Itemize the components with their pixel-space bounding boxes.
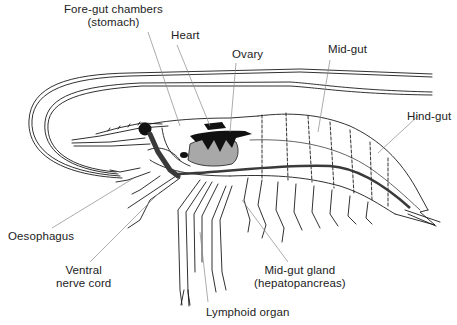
label-foregut-line1: Fore-gut chambers <box>64 3 163 16</box>
label-heart: Heart <box>171 29 200 42</box>
label-oesophagus: Oesophagus <box>8 230 74 243</box>
label-ventral-line2: nerve cord <box>56 277 111 290</box>
label-ventral-nerve-cord: Ventral nerve cord <box>56 264 111 290</box>
organs <box>139 122 411 208</box>
label-midgut-gland-line2: (hepatopancreas) <box>254 277 346 290</box>
heart-shape <box>204 122 226 130</box>
pereiopods <box>110 168 232 306</box>
label-foregut-line2: (stomach) <box>64 16 163 29</box>
nerve-ganglion <box>180 152 188 158</box>
label-hindgut: Hind-gut <box>407 110 451 123</box>
pleopods <box>244 178 372 242</box>
label-lymphoid-organ: Lymphoid organ <box>206 306 289 319</box>
label-foregut: Fore-gut chambers (stomach) <box>64 3 163 29</box>
label-midgut: Mid-gut <box>328 43 367 56</box>
abdomen <box>230 113 440 226</box>
label-ventral-line1: Ventral <box>56 264 111 277</box>
label-midgut-gland-line1: Mid-gut gland <box>254 264 346 277</box>
shrimp-anatomy-diagram: Fore-gut chambers (stomach) Heart Ovary … <box>0 0 457 325</box>
label-midgut-gland: Mid-gut gland (hepatopancreas) <box>254 264 346 290</box>
label-ovary: Ovary <box>232 48 263 61</box>
leader-lines <box>52 32 418 302</box>
